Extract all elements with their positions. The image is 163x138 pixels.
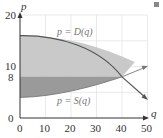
corner-marker-icon xyxy=(154,2,159,7)
x-tick-50: 50 xyxy=(141,122,153,134)
y-axis-label: p xyxy=(20,0,27,12)
x-tick-40: 40 xyxy=(116,122,128,134)
supply-arrowhead-icon xyxy=(142,66,148,70)
y-tick-8: 8 xyxy=(8,71,14,83)
y-tick-20: 20 xyxy=(5,9,17,21)
x-tick-20: 20 xyxy=(65,122,77,134)
y-tick-0: 0 xyxy=(8,112,14,124)
supply-label: p = S(q) xyxy=(56,95,91,107)
x-axis-arrowhead-icon xyxy=(143,116,149,121)
x-axis-label: q xyxy=(151,107,157,119)
x-tick-30: 30 xyxy=(90,122,102,134)
demand-label: p = D(q) xyxy=(56,26,93,38)
surplus-chart: p q 20 10 8 0 0 10 20 30 40 50 p = D(q) … xyxy=(0,0,163,138)
x-tick-10: 10 xyxy=(39,122,51,134)
x-tick-0: 0 xyxy=(17,122,23,134)
